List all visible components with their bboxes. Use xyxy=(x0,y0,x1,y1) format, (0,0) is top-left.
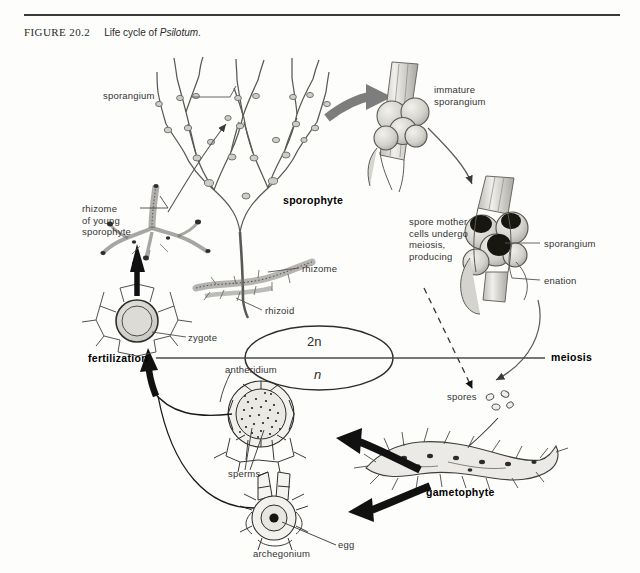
label-sporangium-mature: sporangium xyxy=(544,238,596,250)
label-rhizome: rhizome xyxy=(302,263,337,275)
figure-page: FIGURE 20.2Life cycle of Psilotum. xyxy=(0,0,640,573)
arrow-sporangium-to-spores xyxy=(496,300,540,380)
label-meiosis: meiosis xyxy=(551,352,592,364)
label-sperms: sperms xyxy=(228,468,260,480)
label-spores: spores xyxy=(447,391,477,403)
label-antheridium: antheridium xyxy=(225,364,277,376)
egg-nucleus xyxy=(269,513,278,522)
label-gametophyte: gametophyte xyxy=(426,487,495,499)
life-cycle-illustration xyxy=(0,0,640,573)
antheridium-illustration xyxy=(214,381,306,472)
label-zygote: zygote xyxy=(188,332,217,344)
arrow-zygote-to-young-sporophyte xyxy=(130,244,145,296)
label-fertilization: fertilization xyxy=(88,353,148,365)
sporangia-knobs xyxy=(156,92,331,199)
rhizome-illustration xyxy=(196,262,312,318)
mature-sporangium-illustration xyxy=(461,176,528,314)
curve-antheridium-to-fertilization xyxy=(152,390,232,415)
label-rhizome-young-sporophyte: rhizome of young sporophyte xyxy=(82,203,131,238)
label-rhizoid: rhizoid xyxy=(265,305,294,317)
label-haploid-n: n xyxy=(314,367,321,382)
label-enation: enation xyxy=(544,275,577,287)
arrow-young-to-sporophyte xyxy=(168,124,226,212)
label-spore-mother-cells: spore mother cells undergo meiosis, prod… xyxy=(409,216,468,262)
arrow-immature-to-mature xyxy=(428,128,472,184)
label-sporophyte: sporophyte xyxy=(283,195,343,207)
arrow-gametophyte-to-archegonium xyxy=(348,486,430,522)
label-diploid-2n: 2n xyxy=(307,334,321,349)
gametophyte-illustration xyxy=(354,428,568,490)
immature-sporangium-illustration xyxy=(368,62,429,192)
leader-antheridium xyxy=(220,372,231,402)
leader-rhizoid xyxy=(236,298,262,310)
archegonium-illustration xyxy=(240,472,308,550)
label-sporangium-plant: sporangium xyxy=(103,90,155,102)
label-immature-sporangium: immature sporangium xyxy=(434,84,486,107)
label-egg: egg xyxy=(338,539,354,551)
spores-illustration xyxy=(485,390,514,411)
label-archegonium: archegonium xyxy=(253,548,310,560)
